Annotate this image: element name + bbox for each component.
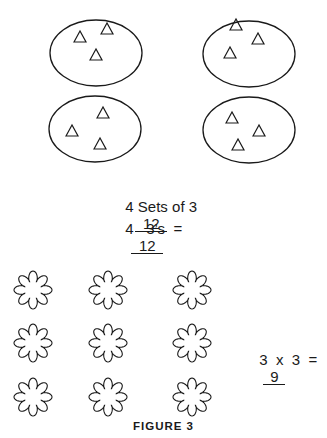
set-ellipse	[203, 97, 295, 163]
equation-text: 4 3’s =	[125, 220, 182, 237]
triangle-icon	[252, 33, 264, 44]
set-ellipse	[50, 20, 142, 86]
equation-multiplication: 3 x 3 = 9	[251, 334, 317, 385]
flower-icon	[173, 378, 211, 416]
answer-blank: 9	[263, 369, 285, 385]
triangle-icon	[230, 19, 242, 30]
set-ellipse	[49, 96, 141, 162]
equation-threes: 4 3’s = 12	[117, 203, 182, 254]
flower-icon	[173, 324, 211, 362]
triangle-icon	[253, 125, 265, 136]
triangle-icon	[224, 47, 236, 58]
flower-icon	[173, 271, 211, 309]
flower-icon	[14, 271, 52, 309]
flower-icon	[14, 378, 52, 416]
set-ellipse	[203, 19, 295, 87]
flower-icon	[89, 324, 127, 362]
answer-blank: 12	[131, 238, 163, 254]
triangle-icon	[97, 107, 109, 118]
triangle-icon	[66, 125, 78, 136]
triangle-icon	[90, 49, 102, 60]
equation-text: 3 x 3 =	[259, 351, 317, 368]
triangle-icon	[94, 138, 106, 149]
triangle-icon	[101, 23, 113, 34]
triangle-icon	[74, 31, 86, 42]
flower-icon	[89, 378, 127, 416]
triangle-icon	[226, 112, 238, 123]
flower-icon	[14, 324, 52, 362]
triangle-icon	[232, 139, 244, 150]
figure-caption: FIGURE 3	[0, 420, 327, 432]
flower-icon	[89, 271, 127, 309]
